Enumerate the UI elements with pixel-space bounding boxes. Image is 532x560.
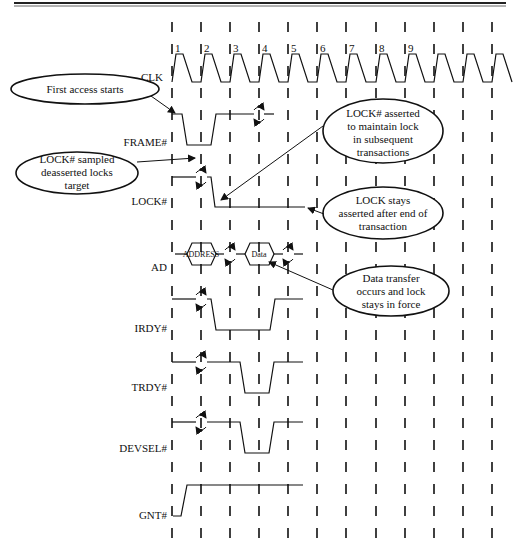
signal-irdy: IRDY# xyxy=(135,292,303,334)
callout-lock-sampled-line-1: LOCK# sampled xyxy=(40,153,115,165)
header-rule xyxy=(14,3,506,6)
signal-label-gnt: GNT# xyxy=(139,509,168,521)
callout-lock-stays-line-2: asserted after end of xyxy=(339,207,428,219)
signal-label-ad: AD xyxy=(151,261,167,273)
callout-lock-sampled: LOCK# sampled deasserted locks target xyxy=(16,152,195,194)
callout-data-transfer-line-2: occurs and lock xyxy=(356,285,426,297)
signal-label-trdy: TRDY# xyxy=(132,381,168,393)
clock-number-9: 9 xyxy=(408,42,414,54)
callout-lock-stays-line-3: transaction xyxy=(359,220,408,232)
clock-number-1: 1 xyxy=(175,42,181,54)
callout-lock-asserted-line-2: to maintain lock xyxy=(347,120,419,132)
callout-data-transfer: Data transfer occurs and lock stays in f… xyxy=(269,262,449,316)
signal-trdy: TRDY# xyxy=(132,355,303,393)
callout-first-access-text: First access starts xyxy=(47,83,124,95)
arrow-icon xyxy=(269,262,333,290)
signal-frame: FRAME# xyxy=(124,107,274,148)
signal-devsel: DEVSEL# xyxy=(119,415,303,454)
clock-number-2: 2 xyxy=(204,42,210,54)
arrow-icon xyxy=(137,158,195,162)
callout-lock-sampled-line-2: deasserted locks xyxy=(41,166,113,178)
arrow-icon xyxy=(221,126,323,200)
signal-clk: CLK 1 2 3 4 5 6 7 8 9 xyxy=(141,42,512,83)
clock-number-3: 3 xyxy=(233,42,239,54)
data-label: Data xyxy=(251,250,267,259)
callout-lock-asserted-line-4: transactions xyxy=(357,146,410,158)
signal-label-irdy: IRDY# xyxy=(135,322,168,334)
clock-number-4: 4 xyxy=(262,42,268,54)
clock-number-5: 5 xyxy=(291,42,297,54)
arrow-icon xyxy=(308,208,324,214)
callout-data-transfer-line-1: Data transfer xyxy=(362,272,419,284)
clock-number-8: 8 xyxy=(379,42,385,54)
callout-lock-sampled-line-3: target xyxy=(65,179,90,191)
address-label: ADDRESS xyxy=(183,250,219,259)
callout-lock-asserted: LOCK# asserted to maintain lock in subse… xyxy=(221,99,443,200)
timing-diagram: CLK 1 2 3 4 5 6 7 8 9 FRAME# LOCK# AD xyxy=(0,0,532,560)
callout-lock-stays: LOCK stays asserted after end of transac… xyxy=(308,187,443,239)
clock-number-7: 7 xyxy=(349,42,355,54)
arrow-icon xyxy=(151,96,175,113)
callout-lock-asserted-line-1: LOCK# asserted xyxy=(346,107,420,119)
signal-lock: LOCK# xyxy=(132,170,305,207)
callout-lock-asserted-line-3: in subsequent xyxy=(353,133,413,145)
clock-number-6: 6 xyxy=(320,42,326,54)
signal-label-lock: LOCK# xyxy=(132,195,168,207)
signal-gnt: GNT# xyxy=(139,485,303,521)
callout-lock-stays-line-1: LOCK stays xyxy=(356,194,411,206)
callout-data-transfer-line-3: stays in force xyxy=(362,298,421,310)
signal-label-devsel: DEVSEL# xyxy=(119,442,167,454)
signal-label-frame: FRAME# xyxy=(124,136,168,148)
signal-ad: AD ADDRESS Data xyxy=(151,243,303,273)
